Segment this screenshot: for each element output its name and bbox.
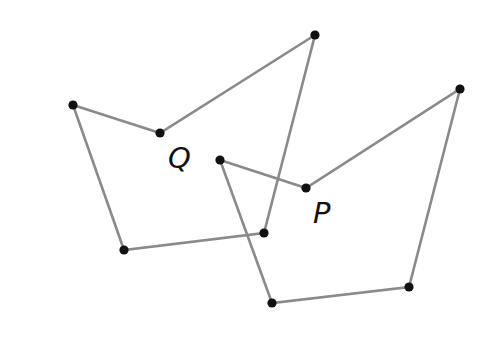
polygon-q-vertex-4 xyxy=(119,245,128,254)
polygon-p-vertex-3 xyxy=(404,282,413,291)
polygon-q-label: Q xyxy=(168,141,191,175)
polygon-p-outline xyxy=(220,89,460,303)
polygon-q-outline xyxy=(73,35,315,250)
polygon-p: P xyxy=(215,84,464,307)
polygon-p-vertices xyxy=(215,84,464,307)
polygon-p-vertex-4 xyxy=(267,298,276,307)
polygon-q-vertex-3 xyxy=(259,228,268,237)
polygon-p-label: P xyxy=(313,196,331,230)
polygon-q-vertex-0 xyxy=(68,100,77,109)
polygon-p-vertex-1 xyxy=(301,183,310,192)
polygon-p-vertex-2 xyxy=(455,84,464,93)
polygon-diagram: Q P xyxy=(0,0,494,338)
polygon-p-vertex-0 xyxy=(215,155,224,164)
polygon-q-vertex-2 xyxy=(310,30,319,39)
polygon-q: Q xyxy=(68,30,319,254)
polygon-q-vertices xyxy=(68,30,319,254)
polygon-q-vertex-1 xyxy=(155,128,164,137)
